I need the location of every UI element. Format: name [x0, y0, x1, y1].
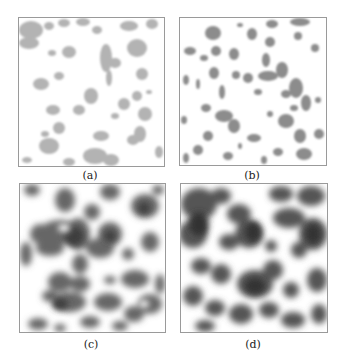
- speckle-pattern-c: [20, 184, 165, 332]
- panel-c-image: [19, 183, 166, 333]
- panel-d-image: [180, 183, 328, 333]
- panel-c-label: (c): [71, 338, 111, 351]
- speckle-pattern-b: [180, 18, 326, 165]
- panel-a-label: (a): [70, 169, 110, 182]
- panel-a-image: [18, 17, 165, 167]
- panel-b-label: (b): [232, 169, 272, 182]
- speckle-pattern-d: [181, 184, 327, 332]
- speckle-pattern-a: [19, 18, 164, 166]
- panel-b-image: [179, 17, 327, 166]
- panel-d-label: (d): [233, 338, 273, 351]
